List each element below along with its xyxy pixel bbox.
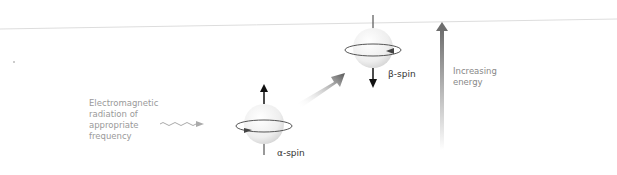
energy-line-1: Increasing [453, 66, 523, 77]
energy-line-2: energy [453, 77, 523, 88]
alpha-spin-label: α-spin [277, 148, 305, 158]
radiation-label: Electromagnetic radiation of appropriate… [89, 98, 169, 142]
radiation-line-2: radiation of [89, 109, 169, 120]
energy-axis-arrow [436, 22, 448, 150]
radiation-line-1: Electromagnetic [89, 98, 169, 109]
transition-arrow [298, 73, 345, 108]
stray-dot [13, 61, 15, 63]
up-arrowhead-icon [260, 84, 268, 92]
radiation-line-3: appropriate [89, 120, 169, 131]
diagram-canvas [0, 0, 617, 175]
radiation-line-4: frequency [89, 131, 169, 142]
alpha-spin-sphere [236, 84, 292, 155]
nmr-spin-diagram: Electromagnetic radiation of appropriate… [0, 0, 617, 175]
baseline-line [0, 19, 617, 29]
down-arrowhead-icon [369, 79, 377, 88]
beta-spin-label: β-spin [388, 69, 416, 79]
energy-axis-label: Increasing energy [453, 66, 523, 88]
